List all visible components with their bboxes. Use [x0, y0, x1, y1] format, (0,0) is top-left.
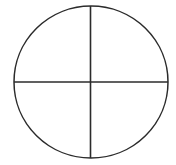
quartered-circle-diagram [0, 0, 176, 165]
figure-canvas [0, 0, 176, 165]
